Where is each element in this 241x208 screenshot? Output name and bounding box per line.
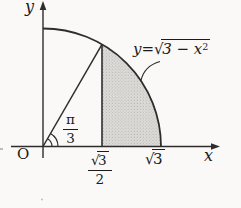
tick-radicand: 3 — [97, 151, 109, 168]
angle-denominator: 3 — [63, 130, 78, 146]
equation-exponent: 2 — [202, 41, 208, 52]
equation-equals: = — [141, 40, 154, 58]
equation-leader-line — [141, 62, 160, 81]
x-tick-sqrt3-over-2: √3 2 — [88, 153, 112, 186]
origin-label: O — [17, 146, 29, 163]
shaded-region — [102, 44, 161, 146]
math-figure: y x O y=√3 − x2 π 3 √3 2 √3 — [0, 0, 241, 208]
scan-artifact-dot — [41, 199, 43, 201]
tick-denominator: 2 — [88, 171, 112, 187]
angle-numerator: π — [63, 112, 78, 130]
equation-radicand: 3 − x — [162, 40, 202, 58]
y-axis-label: y — [25, 0, 34, 16]
scan-artifact-edge — [0, 148, 3, 150]
angle-value-label: π 3 — [63, 112, 78, 145]
y-axis-arrow-icon — [40, 1, 47, 10]
x-axis-label: x — [204, 147, 213, 165]
tick2-radicand: 3 — [152, 149, 165, 168]
curve-equation: y=√3 − x2 — [133, 41, 210, 58]
x-tick-sqrt3: √3 — [145, 151, 165, 168]
figure-canvas — [0, 0, 241, 208]
angle-arc-inner — [48, 139, 53, 147]
